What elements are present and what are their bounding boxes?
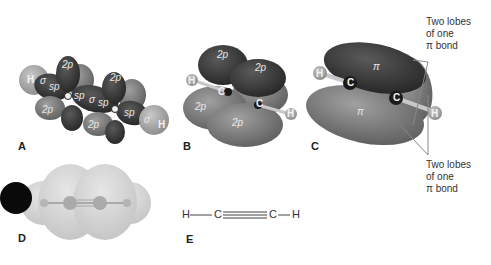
annotation-line: of one — [426, 28, 471, 40]
formula-atom-h: H — [292, 208, 300, 220]
pi-label: π — [373, 61, 380, 72]
orbital-label-sp: sp — [98, 97, 109, 108]
sigma-label: σ — [40, 75, 47, 86]
orbital-label-sp: sp — [49, 81, 60, 92]
panel-label-a: A — [18, 140, 26, 152]
panel-d-space-filling-model: D — [0, 170, 160, 250]
annotation-line: π bond — [426, 183, 471, 195]
orbital-illustration-a: 2p 2p 2p 2p sp sp sp sp σ σ σ H H — [0, 0, 170, 160]
orbital-label-2p: 2p — [87, 119, 100, 130]
panel-a-sp-orbital-diagram: 2p 2p 2p 2p sp sp sp sp σ σ σ H H A — [0, 0, 170, 160]
annotation-line: Two lobes — [426, 16, 471, 28]
panel-c-pi-bond-diagram: π π H C C H Two lobes of one π bond Two … — [300, 0, 491, 200]
sigma-label: σ — [144, 114, 151, 125]
orbital-label-sp: sp — [124, 107, 135, 118]
orbital-label-2p: 2p — [61, 59, 74, 70]
panel-label-e: E — [186, 233, 193, 245]
annotation-top-pi-bond: Two lobes of one π bond — [426, 16, 471, 52]
formula-atom-c: C — [214, 208, 222, 220]
orbital-label-sp: sp — [74, 90, 85, 101]
atom-label-c: C — [393, 92, 400, 103]
panel-label-b: B — [183, 140, 191, 152]
pi-label: π — [357, 106, 364, 117]
orbital-illustration-b: 2p 2p 2p 2p H C C H — [170, 0, 305, 160]
atom-label-h: H — [431, 108, 438, 119]
formula-atom-c: C — [269, 208, 277, 220]
atom-label-c: C — [256, 98, 263, 109]
atom-label-h: H — [158, 119, 165, 130]
annotation-line: π bond — [426, 40, 471, 52]
atom-label-h: H — [188, 75, 195, 86]
annotation-line: Two lobes — [426, 159, 471, 171]
panel-e-structural-formula: H C C H E — [180, 205, 310, 250]
orbital-label-2p: 2p — [254, 62, 267, 73]
orbital-label-2p: 2p — [216, 49, 229, 60]
annotation-bottom-pi-bond: Two lobes of one π bond — [426, 159, 471, 195]
orbital-label-2p: 2p — [194, 101, 207, 112]
annotation-line: of one — [426, 171, 471, 183]
panel-label-c: C — [311, 140, 319, 152]
atom-label-c: C — [347, 77, 354, 88]
atom-label-h: H — [287, 108, 294, 119]
orbital-label-2p: 2p — [231, 117, 244, 128]
sigma-label: σ — [89, 94, 96, 105]
atom-label-h: H — [27, 74, 34, 85]
orbital-label-2p: 2p — [41, 104, 54, 115]
black-sphere-marker — [0, 182, 32, 214]
bond-lines — [180, 205, 310, 225]
atom-label-h: H — [316, 68, 323, 79]
atom-label-c: C — [218, 86, 225, 97]
formula-atom-h: H — [182, 208, 190, 220]
panel-label-d: D — [18, 232, 26, 244]
panel-b-2p-overlap-diagram: 2p 2p 2p 2p H C C H B — [170, 0, 305, 160]
orbital-label-2p: 2p — [109, 72, 122, 83]
